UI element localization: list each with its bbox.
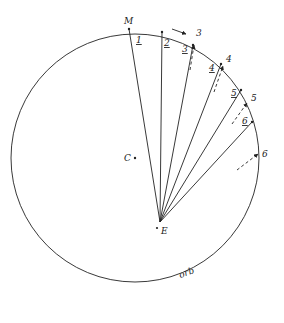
- dashed-arrow-6: [237, 154, 258, 170]
- inner-label-5: 5: [231, 88, 237, 98]
- inner-label-4: 4: [208, 63, 215, 73]
- ray-1: [129, 29, 160, 222]
- orbit-diagram: M C E orb 1 2 3 4 5 6 3 4 5 6: [0, 0, 284, 323]
- outer-label-3: 3: [196, 28, 202, 38]
- label-e: E: [160, 226, 168, 236]
- eccentric-point-e: [156, 227, 158, 229]
- ray-4: [160, 64, 221, 222]
- ray-6: [160, 122, 252, 222]
- outer-label-4: 4: [225, 54, 232, 64]
- rays: [129, 29, 252, 222]
- inner-label-6: 6: [242, 116, 248, 126]
- inner-label-1: 1: [136, 35, 142, 45]
- center-point-c: [134, 157, 136, 159]
- inner-label-3: 3: [182, 44, 188, 54]
- ray-2: [160, 32, 162, 222]
- inner-label-2: 2: [163, 38, 170, 48]
- label-m: M: [123, 16, 134, 26]
- label-c: C: [124, 153, 131, 163]
- ray-endpoints: [128, 28, 253, 123]
- outer-label-5: 5: [251, 93, 257, 103]
- outer-label-6: 6: [262, 149, 268, 159]
- motion-arrow-icon: [172, 29, 186, 34]
